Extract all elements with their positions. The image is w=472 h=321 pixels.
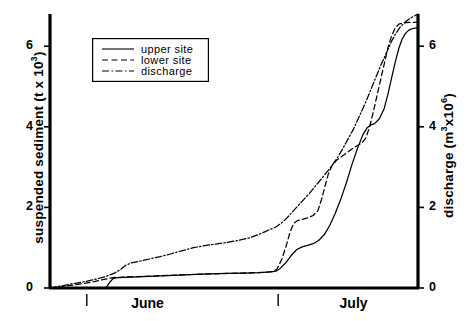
- y-axis-right-title-exponent2: 6: [439, 98, 449, 103]
- left-tick-label: 6: [26, 38, 33, 52]
- y-axis-right-title-mid: x10: [441, 103, 456, 126]
- left-tick-label: 2: [26, 199, 33, 213]
- plot-area: [0, 0, 472, 321]
- bottom-axis-ticks: [87, 294, 278, 306]
- y-axis-right-title-tail: ): [441, 93, 456, 98]
- right-tick-label: 6: [429, 38, 436, 52]
- x-axis-month-label: July: [340, 295, 368, 311]
- right-tick-label: 2: [429, 199, 436, 213]
- left-tick-label: 0: [26, 280, 33, 294]
- right-tick-label: 0: [429, 280, 436, 294]
- left-tick-label: 4: [26, 119, 33, 133]
- y-axis-right-title: discharge (m3x106): [441, 56, 456, 256]
- y-axis-right-title-main: discharge (m: [441, 132, 456, 218]
- y-axis-left-title-main: suspended sediment (t x 10: [31, 61, 46, 243]
- y-axis-left-title: suspended sediment (t x 103): [31, 48, 46, 248]
- y-axis-right-title-exponent: 3: [439, 126, 449, 131]
- y-axis-left-title-exponent: 3: [29, 56, 39, 61]
- x-axis-month-label: June: [131, 295, 164, 311]
- legend-label-discharge: discharge: [141, 65, 192, 77]
- right-tick-label: 4: [429, 119, 436, 133]
- chart-figure: suspended sediment (t x 103) discharge (…: [0, 0, 472, 321]
